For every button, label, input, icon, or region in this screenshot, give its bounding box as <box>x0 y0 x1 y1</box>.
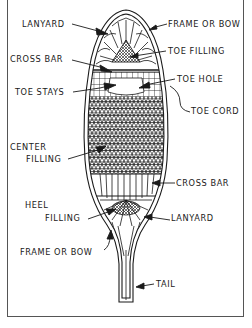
label-toe-hole: TOE HOLE <box>177 75 223 84</box>
label-cross-bar-top: CROSS BAR <box>10 55 63 64</box>
label-center-filling-line1: CENTER <box>10 143 46 152</box>
label-frame-or-bow-top: FRAME OR BOW <box>168 20 240 29</box>
label-toe-filling: TOE FILLING <box>168 47 225 56</box>
label-tail: TAIL <box>156 280 175 289</box>
label-toe-cord: TOE CORD <box>191 107 239 116</box>
label-cross-bar-bottom: CROSS BAR <box>176 179 229 188</box>
label-lanyard-top: LANYARD <box>22 20 65 29</box>
label-center-filling-line2: FILLING <box>26 155 61 164</box>
label-frame-or-bow-bottom: FRAME OR BOW <box>20 248 92 257</box>
label-lanyard-bottom: LANYARD <box>171 214 214 223</box>
label-heel-filling-line2: FILLING <box>45 214 80 223</box>
heel-filling-area <box>100 200 152 256</box>
label-toe-stays: TOE STAYS <box>15 88 64 97</box>
label-heel-filling-line1: HEEL <box>25 201 48 210</box>
